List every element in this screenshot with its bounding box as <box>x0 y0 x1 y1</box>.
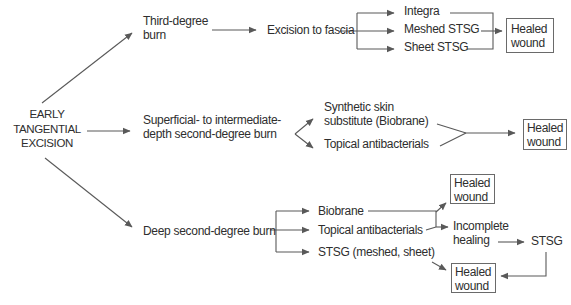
arrow-stsg-option-to-healed-wound-4 <box>432 262 446 270</box>
arrow-to-synthetic-skin <box>295 119 313 134</box>
node-sheet-stsg: Sheet STSG <box>404 40 468 54</box>
node-deep-second-degree-burn: Deep second-degree burn <box>143 224 276 238</box>
healed-wound-box-3: Healed wound <box>450 174 495 204</box>
node-meshed-stsg: Meshed STSG <box>404 22 479 36</box>
burn-treatment-flowchart: EARLY TANGENTIAL EXCISION Third-degree b… <box>0 0 571 305</box>
node-topical-antibacterials-bottom: Topical antibacterials <box>318 223 423 237</box>
arrow-stsg-to-healed-wound-4 <box>501 252 546 276</box>
node-stsg-followup: STSG <box>531 234 562 248</box>
merge-topical-mid <box>440 133 466 146</box>
hook-topical-junction <box>426 227 436 230</box>
healed-wound-box-1: Healed wound <box>506 18 554 53</box>
node-stsg-meshed-sheet: STSG (meshed, sheet) <box>318 245 435 259</box>
node-early-tangential-excision: EARLY TANGENTIAL EXCISION <box>5 107 89 151</box>
node-synthetic-skin-substitute: Synthetic skin substitute (Biobrane) <box>324 100 428 128</box>
arrow-to-healed-wound-3 <box>436 203 446 212</box>
healed-wound-box-4: Healed wound <box>451 263 496 293</box>
node-integra: Integra <box>404 4 439 18</box>
arrow-root-to-third-degree <box>42 33 132 103</box>
node-third-degree-burn: Third-degree burn <box>143 14 208 42</box>
arrow-to-topical-mid <box>295 134 313 148</box>
node-incomplete-healing: Incomplete healing <box>453 219 509 247</box>
arrow-root-to-deep <box>45 158 132 227</box>
flow-arrows <box>0 0 571 305</box>
node-superficial-intermediate-burn: Superficial- to intermediate- depth seco… <box>143 113 281 141</box>
healed-wound-box-2: Healed wound <box>523 119 567 150</box>
node-topical-antibacterials-mid: Topical antibacterials <box>324 137 429 151</box>
node-excision-to-fascia: Excision to fascia <box>267 23 354 37</box>
merge-synthetic <box>437 124 466 133</box>
node-biobrane: Biobrane <box>318 204 364 218</box>
